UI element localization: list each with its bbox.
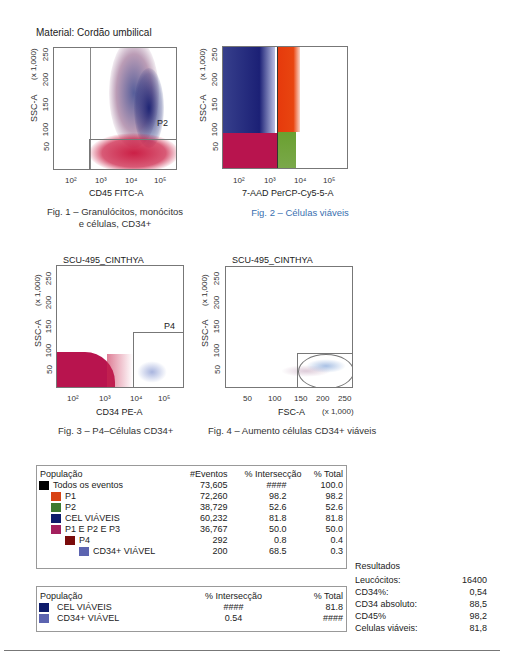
gate-label-p4: P4 (164, 321, 175, 331)
gate-ellipse (298, 354, 353, 388)
result-row: CD34 absoluto:88,5 (355, 598, 487, 610)
x-axis-label: CD34 PE-A (96, 407, 143, 417)
row-name: CEL VIÁVEIS (65, 513, 120, 523)
result-value: 16400 (449, 574, 487, 586)
cell-intersect: #### (180, 602, 286, 613)
cell-total: 0.4 (304, 535, 346, 546)
scatter-plot-cd34: P4 (56, 265, 184, 388)
x-tick: 10² (67, 394, 79, 403)
x-axis-scale: (x 1,000) (322, 407, 354, 416)
page-divider (4, 650, 500, 651)
color-swatch (79, 547, 89, 556)
y-tick: 250 (210, 48, 219, 61)
figure-caption: Fig. 1 – Granulócitos, monócitos (40, 206, 190, 217)
figure-caption: Fig. 4 – Aumento células CD34+ viáveis (208, 425, 376, 436)
result-label: CD34%: (355, 586, 449, 598)
cell-events: 36,767 (179, 524, 230, 535)
x-tick: 10² (233, 176, 245, 185)
result-label: CD45% (355, 610, 449, 622)
y-axis-scale: (x 1,000) (29, 48, 38, 80)
x-tick: 10² (65, 176, 77, 185)
result-value: 88,5 (449, 598, 487, 610)
y-tick: 150 (41, 98, 50, 111)
x-tick: 10⁵ (158, 394, 170, 403)
color-swatch (39, 481, 49, 490)
table-header-row: População % Intersecção % Total (37, 591, 346, 602)
x-axis-label: 7-AAD PerCP-Cy5-5-A (242, 188, 334, 198)
x-tick: 10³ (99, 394, 111, 403)
table-row: CD34+ VIÁVEL 0.54 #### (37, 613, 346, 624)
population-table: População #Eventos % Intersecção % Total… (36, 465, 347, 569)
cell-events: 73,605 (179, 480, 230, 491)
y-tick: 250 (44, 272, 53, 285)
color-swatch (65, 536, 75, 545)
y-tick: 200 (41, 73, 50, 86)
table-header-row: População #Eventos % Intersecção % Total (37, 469, 346, 480)
y-tick: 150 (210, 98, 219, 111)
plot-title: SCU-495_CINTHYA (232, 255, 313, 265)
y-axis-label: SSC-A (198, 94, 208, 122)
cell-intersect: 98.2 (230, 491, 304, 502)
x-tick: 50 (243, 394, 252, 403)
result-row: Celulas viáveis:81,8 (355, 622, 487, 634)
x-axis-label: CD45 FITC-A (89, 188, 144, 198)
table-row: P1 72,260 98.2 98.2 (37, 491, 346, 502)
x-tick: 150 (294, 394, 307, 403)
table-row: CD34+ VIÁVEL 200 68.5 0.3 (37, 546, 346, 557)
x-tick: 250 (338, 394, 351, 403)
gate-label-p2: P2 (157, 118, 168, 128)
figure-caption: Fig. 2 – Células viáveis (250, 207, 350, 218)
row-name: CEL VIÁVEIS (57, 602, 112, 612)
result-value: 98,2 (449, 610, 487, 622)
color-swatch (51, 514, 61, 523)
result-row: CD45%98,2 (355, 610, 487, 622)
col-header-population: População (37, 469, 179, 480)
y-axis-label: SSC-A (33, 319, 43, 347)
row-name: P1 (65, 491, 76, 501)
cell-events: 200 (179, 546, 230, 557)
y-tick: 200 (44, 296, 53, 309)
row-name: CD34+ VIÁVEL (57, 613, 119, 623)
gate-p4 (133, 332, 184, 388)
scatter-plot-fsc (225, 266, 353, 388)
cell-total: #### (287, 613, 346, 624)
row-name: P2 (65, 502, 76, 512)
y-tick: 200 (210, 73, 219, 86)
cell-intersect: 81.8 (230, 513, 304, 524)
viable-population-table: População % Intersecção % Total CEL VIÁV… (36, 586, 347, 632)
y-axis-scale: (x 1,000) (200, 274, 209, 306)
table-row: Todos os eventos 73,605 #### 100.0 (37, 480, 346, 491)
result-label: Leucócitos: (355, 574, 449, 586)
y-tick: 250 (212, 272, 221, 285)
color-swatch (39, 614, 49, 623)
y-axis-label: SSC-A (29, 94, 39, 122)
scatter-plot-cd45: P2 (53, 47, 177, 170)
row-name: CD34+ VIÁVEL (93, 546, 155, 556)
y-tick: 200 (212, 296, 221, 309)
cell-events: 72,260 (179, 491, 230, 502)
y-tick: 100 (210, 123, 219, 136)
cell-total: 100.0 (304, 480, 346, 491)
x-tick: 200 (316, 394, 329, 403)
results-panel: Resultados Leucócitos:16400 CD34%:0,54 C… (355, 561, 487, 634)
results-title: Resultados (355, 561, 487, 574)
result-label: Celulas viáveis: (355, 622, 449, 634)
table-row: P1 E P2 E P3 36,767 50.0 50.0 (37, 524, 346, 535)
y-tick: 150 (212, 320, 221, 333)
cell-events: 60,232 (179, 513, 230, 524)
gate-p2 (89, 139, 177, 170)
result-row: Leucócitos:16400 (355, 574, 487, 586)
cell-total: 52.6 (304, 502, 346, 513)
cell-total: 0.3 (304, 546, 346, 557)
x-axis-label: FSC-A (278, 407, 305, 417)
table-row: CEL VIÁVEIS 60,232 81.8 81.8 (37, 513, 346, 524)
row-name: P1 E P2 E P3 (65, 524, 120, 534)
row-name: Todos os eventos (53, 480, 123, 490)
cell-intersect: 0.54 (180, 613, 286, 624)
y-tick: 50 (213, 365, 222, 374)
cell-total: 81.8 (287, 602, 346, 613)
y-tick: 150 (44, 320, 53, 333)
y-tick: 50 (45, 365, 54, 374)
x-tick: 10⁴ (130, 394, 142, 403)
col-header-total: % Total (304, 469, 346, 480)
